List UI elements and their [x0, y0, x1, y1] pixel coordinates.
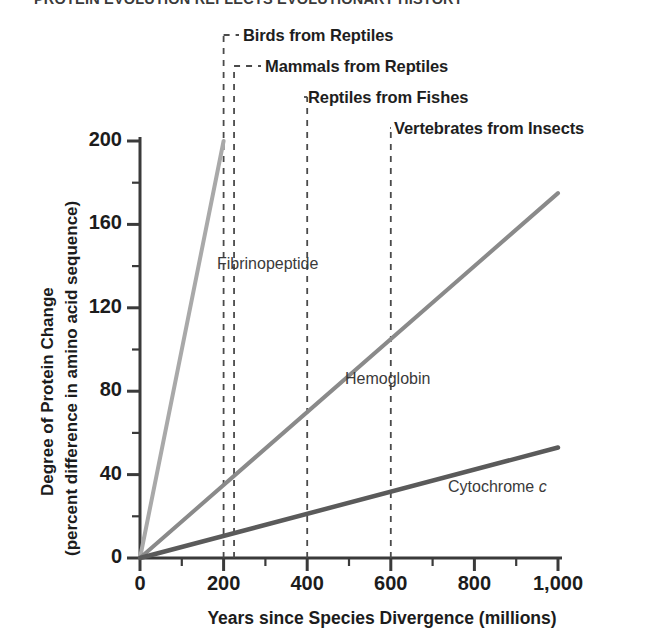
- x-axis-tick-label: 400: [267, 572, 347, 595]
- annotation-label: Birds from Reptiles: [243, 26, 393, 45]
- x-axis-tick-label: 600: [351, 572, 431, 595]
- x-axis-tick-label: 200: [184, 572, 264, 595]
- y-axis-title-line2: (percent difference in amino acid sequen…: [62, 201, 82, 556]
- x-axis-tick-label: 800: [434, 572, 514, 595]
- x-axis-title: Years since Species Divergence (millions…: [122, 608, 642, 629]
- annotation-label: Vertebrates from Insects: [394, 119, 584, 138]
- annotation-label: Mammals from Reptiles: [265, 57, 448, 76]
- annotation-label: Reptiles from Fishes: [308, 88, 468, 107]
- x-axis-tick-label: 0: [100, 572, 180, 595]
- y-axis-tick-label: 200: [70, 128, 122, 151]
- series-label-hemoglobin: Hemoglobin: [345, 370, 430, 388]
- series-label-cytochrome-c: Cytochrome c: [448, 478, 547, 496]
- y-axis-title-line1: Degree of Protein Change: [38, 287, 58, 496]
- x-axis-tick-label: 1,000: [518, 572, 598, 595]
- series-label-fibrinopeptide: Fibrinopeptide: [217, 255, 318, 273]
- chart-figure: PROTEIN EVOLUTION REFLECTS EVOLUTIONARY …: [0, 0, 664, 643]
